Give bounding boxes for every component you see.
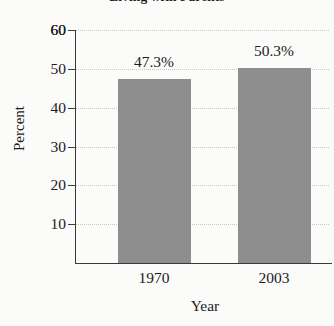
x-axis-line xyxy=(75,263,332,264)
x-axis-tick-label: 2003 xyxy=(224,269,324,287)
y-axis-tick-label: 20 xyxy=(4,177,66,193)
y-axis-tick-mark xyxy=(68,69,76,70)
x-axis-title: Year xyxy=(76,297,334,315)
y-axis-tick-mark xyxy=(68,30,76,31)
x-axis-tick-label: 1970 xyxy=(104,269,204,287)
bar-value-label: 50.3% xyxy=(224,43,324,59)
bar xyxy=(238,68,311,263)
y-axis-tick-mark xyxy=(68,185,76,186)
y-axis-tick-label: 10 xyxy=(4,216,66,232)
y-axis-tick-label: 30 xyxy=(4,139,66,155)
y-axis-tick-labels: 10203040506060 xyxy=(0,0,66,326)
y-axis-tick-mark xyxy=(68,108,76,109)
bar-chart-figure: Living with Parents Percent 102030405060… xyxy=(0,0,334,326)
y-axis-tick-label: 40 xyxy=(4,100,66,116)
y-axis-tick-mark xyxy=(68,147,76,148)
y-axis-tick-label: 60 xyxy=(4,22,66,38)
gridline xyxy=(76,30,329,31)
y-axis-tick-mark xyxy=(68,224,76,225)
bar-value-label: 47.3% xyxy=(104,54,204,70)
y-axis-tick-label: 50 xyxy=(4,61,66,77)
bar xyxy=(118,79,191,263)
